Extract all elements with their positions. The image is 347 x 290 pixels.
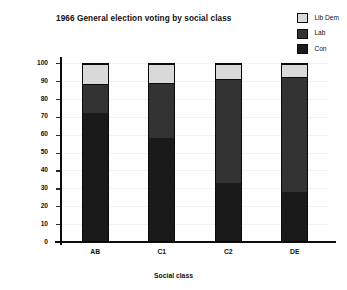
bar-segment-lab [216,79,241,183]
x-axis-label-ab: AB [65,248,125,255]
legend-label-lab: Lab [314,30,325,37]
y-axis-tick-label: 50 [18,149,48,156]
bar-segment-lib-dem [282,64,307,77]
legend-swatch-lab [297,29,308,39]
bar-de[interactable] [281,63,308,242]
legend-item-con[interactable]: Con [297,44,339,54]
bar-segment-con [83,113,108,241]
bar-segment-lab [149,83,174,138]
y-axis-tick-label: 90 [18,78,48,85]
bar-segment-lab [83,84,108,113]
bar-segment-lib-dem [149,64,174,83]
chart-title: 1966 General election voting by social c… [56,14,232,23]
legend-label-lib-dem: Lib Dem [314,15,339,22]
y-axis-tick-label: 100 [18,60,48,67]
x-axis-label-c1: C1 [132,248,192,255]
bar-segment-con [149,138,174,241]
bar-ab[interactable] [82,63,109,242]
x-axis-label: Social class [0,272,347,279]
y-axis-tick-label: 0 [18,239,48,246]
y-axis-tick-label: 40 [18,167,48,174]
legend-label-con: Con [314,46,326,53]
bar-segment-con [282,192,307,241]
chart-container: 1966 General election voting by social c… [0,0,347,290]
legend-swatch-lib-dem [297,13,308,23]
y-axis-tick-label: 70 [18,113,48,120]
chart-legend: Lib Dem Lab Con [297,13,339,54]
bar-segment-lib-dem [216,64,241,79]
bar-segment-lib-dem [83,64,108,84]
y-axis-tick-label: 10 [18,221,48,228]
y-axis-tick-label: 80 [18,96,48,103]
bar-segment-con [216,183,241,241]
y-axis-tick-label: 30 [18,185,48,192]
bar-segment-lab [282,77,307,192]
legend-swatch-con [297,44,308,54]
y-axis-tick-label: 20 [18,203,48,210]
bar-c1[interactable] [148,63,175,242]
y-axis-line [60,57,63,245]
legend-item-lib-dem[interactable]: Lib Dem [297,13,339,23]
x-axis-label-c2: C2 [198,248,258,255]
x-axis-label-de: DE [265,248,325,255]
y-axis-tick-label: 60 [18,131,48,138]
bar-c2[interactable] [215,63,242,242]
legend-item-lab[interactable]: Lab [297,29,339,39]
